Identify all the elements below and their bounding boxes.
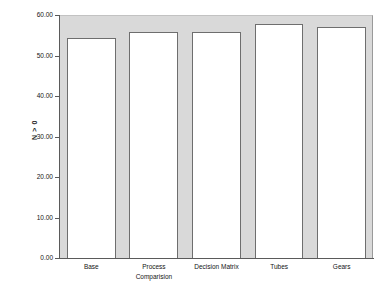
- x-axis-label-line: Comparision: [123, 272, 186, 282]
- y-axis: 0.0010.0020.0030.0040.0050.0060.00: [0, 0, 60, 297]
- x-axis-label-line: Tubes: [248, 262, 311, 272]
- bar: [317, 27, 366, 258]
- bar: [192, 32, 241, 258]
- y-axis-tick-label: 50.00: [37, 51, 53, 60]
- x-axis-label: ProcessComparision: [123, 262, 186, 281]
- x-axis-label: Decision Matrix: [185, 262, 248, 272]
- y-axis-tick-label: 60.00: [37, 10, 53, 19]
- bar: [67, 38, 116, 258]
- x-axis-labels: BaseProcessComparisionDecision MatrixTub…: [60, 262, 373, 296]
- x-axis-label: Base: [60, 262, 123, 272]
- x-axis-label: Gears: [310, 262, 373, 272]
- x-axis-label-line: Gears: [310, 262, 373, 272]
- bar-chart: N > 0 0.0010.0020.0030.0040.0050.0060.00…: [0, 0, 382, 297]
- x-axis-label-line: Decision Matrix: [185, 262, 248, 272]
- y-axis-tick-label: 20.00: [37, 172, 53, 181]
- y-axis-tick-label: 40.00: [37, 91, 53, 100]
- x-axis-label-line: Base: [60, 262, 123, 272]
- x-axis-label-line: Process: [123, 262, 186, 272]
- bars-layer: [60, 15, 373, 258]
- bar: [129, 32, 178, 258]
- x-axis-line: [59, 258, 374, 259]
- y-axis-tick-label: 30.00: [37, 132, 53, 141]
- y-axis-tick-label: 10.00: [37, 213, 53, 222]
- bar: [255, 24, 304, 258]
- y-axis-tick-label: 0.00: [40, 253, 53, 262]
- x-axis-label: Tubes: [248, 262, 311, 272]
